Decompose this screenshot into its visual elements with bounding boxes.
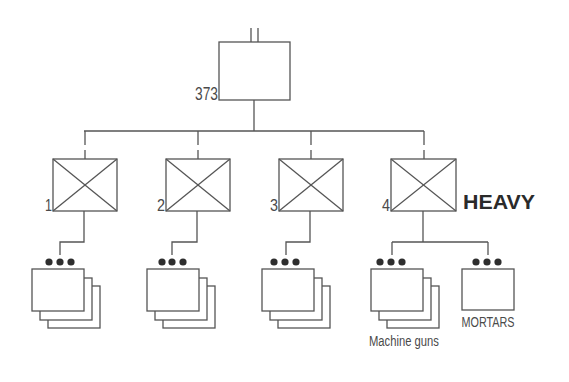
platoon-box <box>371 269 423 311</box>
platoon-echelon-dots-icon <box>45 258 74 265</box>
platoon-echelon-dots-icon <box>158 258 186 265</box>
company-1: 1 <box>45 159 117 255</box>
platoon-stack-3 <box>262 258 330 328</box>
company-2: 2 <box>157 159 230 255</box>
platoon-echelon-dots-icon <box>270 258 299 265</box>
company-4-heavy: 4 HEAVY <box>382 159 535 255</box>
hq-designation: 373 <box>195 83 218 104</box>
platoon-stack-machine-guns: Machine guns <box>369 258 439 349</box>
platoon-mortars: MORTARS <box>462 258 515 330</box>
company-drops <box>85 131 424 159</box>
company-number: 2 <box>157 196 165 215</box>
org-chart: 373 1 2 3 4 HEAVY <box>0 0 569 382</box>
platoon-echelon-dots-icon <box>472 258 501 265</box>
company-number: 4 <box>382 196 390 215</box>
platoon-box <box>462 269 514 310</box>
platoon-connector <box>172 211 197 255</box>
hq-box <box>219 42 290 100</box>
company-number: 3 <box>270 196 278 215</box>
platoon-box <box>147 269 199 311</box>
platoon-box <box>32 269 84 311</box>
platoon-connector <box>60 211 84 255</box>
platoon-box <box>262 269 314 311</box>
heavy-modifier-label: HEAVY <box>463 190 535 213</box>
company-3: 3 <box>270 159 343 255</box>
platoon-stack-2 <box>147 258 215 328</box>
battalion-hq: 373 <box>195 28 290 131</box>
machine-guns-label: Machine guns <box>369 333 439 349</box>
platoon-echelon-dots-icon <box>376 258 405 265</box>
mortars-label: MORTARS <box>462 314 515 330</box>
platoon-stack-1 <box>32 258 100 328</box>
company-number: 1 <box>45 196 52 215</box>
platoon-connector <box>286 211 310 255</box>
